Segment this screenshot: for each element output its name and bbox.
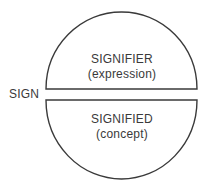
sign-label: SIGN (9, 88, 39, 100)
signified-title: SIGNIFIED (91, 113, 153, 125)
signifier-title: SIGNIFIER (91, 53, 153, 65)
signifier-subtitle: (expression) (88, 68, 156, 80)
signified-subtitle: (concept) (96, 128, 148, 140)
